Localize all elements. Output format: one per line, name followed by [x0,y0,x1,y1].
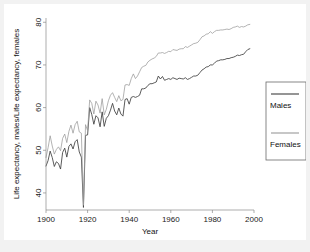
y-tick-label: 60 [35,103,44,112]
legend-label-females: Females [270,140,301,149]
y-tick-label: 50 [35,145,44,154]
x-tick-label: 1920 [79,215,97,224]
chart-svg: 190019201940196019802000 4050607080 Year… [4,4,306,240]
x-tick-label: 1940 [120,215,138,224]
x-tick-label: 2000 [245,215,263,224]
figure-container: 190019201940196019802000 4050607080 Year… [0,0,310,252]
x-tick-label: 1900 [37,215,55,224]
plot-canvas: 190019201940196019802000 4050607080 Year… [4,4,306,240]
x-axis-title: Year [142,227,159,236]
y-tick-label: 40 [35,188,44,197]
x-tick-label: 1980 [204,215,222,224]
y-tick-label: 70 [35,60,44,69]
y-tick-label: 80 [35,17,44,26]
x-tick-label: 1960 [162,215,180,224]
legend: MalesFemales [266,82,306,160]
legend-label-males: Males [270,101,291,110]
plot-area-background [46,18,254,210]
y-axis-title: Life expectancy, males/Life expectancy, … [12,29,21,199]
